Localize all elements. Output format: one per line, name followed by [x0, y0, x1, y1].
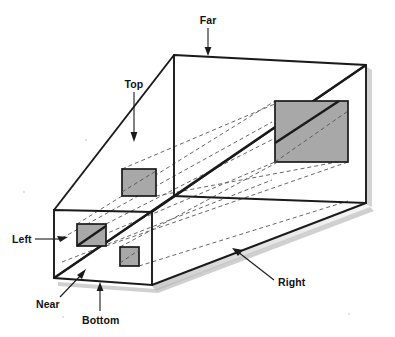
quad-near-small — [120, 247, 139, 266]
diagram-canvas: Far Top Left Near Bottom Right — [0, 0, 395, 337]
right-leader-line — [238, 252, 274, 280]
label-right: Right — [278, 276, 306, 288]
label-bottom: Bottom — [82, 314, 119, 326]
view-frustum-diagram: Far Top Left Near Bottom Right — [0, 0, 395, 337]
frustum-faces — [54, 55, 366, 285]
scan-speck — [85, 139, 87, 141]
label-far: Far — [200, 14, 217, 26]
scan-speck — [348, 313, 350, 315]
quad-far-large — [275, 101, 348, 162]
shadow-right-edge — [367, 67, 372, 207]
far-arrowhead — [205, 47, 212, 56]
scan-speck — [62, 316, 64, 318]
label-top: Top — [125, 78, 144, 90]
quad-mid-upper — [122, 169, 156, 196]
label-near: Near — [36, 298, 60, 310]
label-left: Left — [12, 233, 32, 245]
scan-speck — [23, 191, 25, 193]
